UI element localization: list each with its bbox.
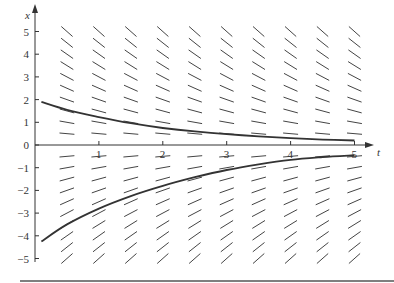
slope-segment	[284, 62, 297, 70]
slope-segment	[285, 27, 296, 37]
slope-segment	[156, 73, 169, 80]
slope-segment	[157, 27, 168, 37]
slope-segment	[60, 156, 75, 157]
slope-segment	[252, 188, 266, 193]
slope-segment	[60, 97, 74, 102]
slope-segment	[285, 254, 296, 264]
slope-segment	[252, 199, 266, 205]
slope-segment	[61, 243, 73, 252]
slope-segment	[92, 121, 107, 124]
slope-segment	[348, 85, 362, 91]
slope-segment	[284, 73, 297, 80]
x-tick-label: −4	[17, 230, 29, 242]
slope-segment	[92, 177, 106, 181]
slope-segment	[315, 121, 330, 124]
slope-segment	[251, 121, 266, 124]
slope-segment	[347, 121, 362, 124]
slope-segment	[220, 73, 233, 80]
slope-segment	[348, 232, 360, 241]
slope-segment	[220, 97, 234, 102]
x-tick-label: 0	[24, 139, 30, 151]
slope-segment	[61, 62, 74, 70]
slope-segment	[316, 73, 329, 80]
slope-segment	[189, 232, 201, 241]
x-tick-label: 2	[24, 94, 30, 106]
slope-segment	[92, 166, 107, 169]
slope-segment	[283, 121, 298, 124]
slope-segment	[125, 27, 136, 37]
slope-segment	[219, 121, 234, 124]
slope-segment	[61, 232, 73, 241]
slope-segment	[125, 38, 137, 47]
slope-segment	[316, 199, 330, 205]
slope-segment	[188, 62, 201, 70]
slope-segment	[252, 73, 265, 80]
slope-segment	[316, 62, 329, 70]
slope-segment	[221, 38, 233, 47]
slope-segment	[220, 62, 233, 70]
x-tick-label: 5	[24, 26, 30, 38]
slope-segment	[61, 50, 73, 59]
slope-segment	[317, 27, 328, 37]
slope-segment	[125, 254, 136, 264]
slope-segment	[316, 97, 330, 102]
slope-segment	[220, 85, 234, 91]
x-axis-arrow-icon	[32, 4, 38, 13]
slope-segment	[316, 188, 330, 193]
slope-segment	[124, 73, 137, 80]
slope-segment	[124, 177, 139, 181]
slope-segment	[253, 50, 265, 59]
slope-segment	[124, 199, 138, 205]
t-tick-label: 2	[160, 148, 166, 160]
slope-segment	[155, 121, 170, 124]
slope-segment	[93, 38, 105, 47]
slope-segment	[188, 73, 201, 80]
slope-segment	[283, 177, 297, 181]
slope-segment	[347, 109, 361, 113]
slope-segment	[92, 73, 105, 80]
slope-segment	[284, 97, 298, 102]
slope-segment	[348, 73, 361, 80]
slope-segment	[124, 109, 139, 113]
slope-segment	[317, 243, 329, 252]
slope-segment	[157, 50, 169, 59]
slope-segment	[156, 177, 170, 181]
slope-segment	[284, 188, 298, 193]
slope-segment	[60, 188, 74, 193]
slope-segment	[285, 38, 297, 47]
slope-segment	[92, 199, 106, 205]
slope-segment	[61, 38, 73, 47]
slope-segment	[251, 133, 266, 134]
slope-segment	[157, 243, 169, 252]
slope-segment	[317, 38, 329, 47]
slope-segment	[251, 109, 266, 113]
slope-segment	[347, 97, 361, 102]
slope-segment	[283, 166, 298, 169]
slope-segment	[61, 27, 72, 37]
slope-segment	[348, 221, 361, 229]
slope-segment	[156, 62, 169, 70]
slope-segment	[251, 166, 266, 169]
slope-segment	[253, 38, 265, 47]
slope-segment	[188, 188, 202, 193]
x-tick-label: −5	[17, 253, 29, 265]
slope-segment	[60, 177, 74, 181]
slope-segment	[124, 188, 138, 193]
slope-segment	[316, 232, 328, 241]
slope-segment	[188, 221, 201, 229]
slope-segment	[188, 210, 201, 217]
slope-field-chart: t x 12345543210−1−2−3−4−5	[0, 0, 394, 283]
slope-segment	[348, 210, 361, 217]
slope-segment	[221, 50, 233, 59]
slope-segment	[125, 232, 137, 241]
slope-segment	[316, 85, 330, 91]
slope-segment	[284, 221, 297, 229]
t-tick-label: 4	[288, 148, 294, 160]
slope-segment	[60, 210, 73, 217]
slope-segment	[189, 27, 200, 37]
slope-segment	[156, 210, 169, 217]
slope-segment	[125, 62, 138, 70]
slope-segment	[188, 109, 203, 113]
slope-segment	[92, 109, 106, 113]
slope-segment	[317, 254, 328, 264]
